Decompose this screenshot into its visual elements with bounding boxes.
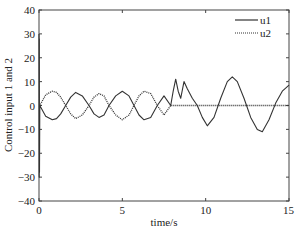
x-tick-label: 0 — [36, 204, 42, 216]
y-tick-label: −10 — [18, 123, 36, 135]
series-layer — [39, 34, 289, 177]
x-axis-label: time/s — [151, 216, 178, 228]
y-tick-label: −40 — [18, 195, 36, 207]
legend: u1 u2 — [235, 14, 271, 39]
x-tick-labels: 051015 — [36, 204, 294, 216]
line-chart: 051015 −40−30−20−10010203040 time/s Cont… — [0, 0, 295, 234]
y-axis-label: Control input 1 and 2 — [2, 58, 14, 152]
legend-label-u1: u1 — [260, 14, 271, 26]
y-tick-label: 30 — [24, 28, 36, 40]
y-tick-label: 10 — [24, 76, 36, 88]
y-tick-label: 40 — [24, 4, 36, 16]
x-tick-label: 10 — [200, 204, 212, 216]
y-tick-label: 0 — [30, 100, 36, 112]
y-tick-label: 20 — [24, 52, 36, 64]
y-tick-label: −30 — [18, 171, 36, 183]
legend-label-u2: u2 — [260, 27, 271, 39]
x-tick-label: 5 — [120, 204, 126, 216]
y-tick-labels: −40−30−20−10010203040 — [18, 4, 36, 207]
y-tick-label: −20 — [18, 147, 36, 159]
x-tick-label: 15 — [283, 204, 295, 216]
